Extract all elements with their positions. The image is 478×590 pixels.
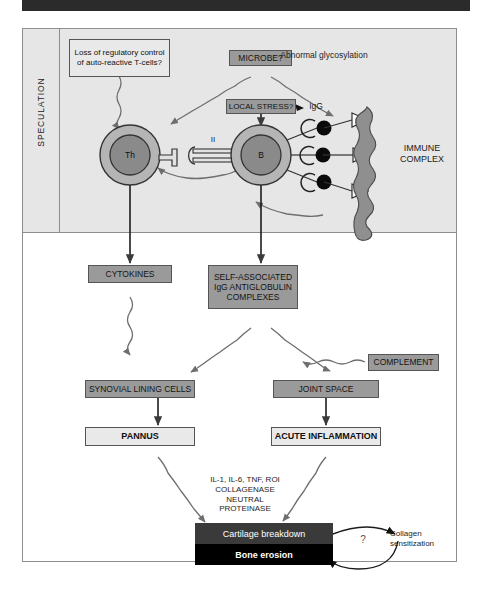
- node-abnormal-glycosylation-label: Abnormal glycosylation: [280, 50, 367, 60]
- node-igg-label: IgG: [309, 101, 323, 111]
- node-local-stress-label: LOCAL STRESS?: [229, 102, 294, 111]
- cell-label-b-text: B: [258, 150, 264, 160]
- node-loss-regulatory[interactable]: Loss of regulatory control of auto-react…: [69, 39, 170, 77]
- node-immune-complex: IMMUNE COMPLEX: [389, 143, 455, 165]
- node-pannus[interactable]: PANNUS: [85, 427, 195, 446]
- node-acute-inflammation[interactable]: ACUTE INFLAMMATION: [271, 427, 381, 446]
- node-joint-space[interactable]: JOINT SPACE: [273, 380, 379, 398]
- node-self-associated[interactable]: SELF-ASSOCIATED IgG ANTIGLOBULIN COMPLEX…: [208, 265, 298, 309]
- cell-label-th-text: Th: [125, 150, 135, 160]
- mhc-class-ii-glyph: [189, 147, 233, 164]
- node-cartilage-breakdown[interactable]: Cartilage breakdown: [195, 523, 333, 544]
- node-joint-space-label: JOINT SPACE: [299, 384, 354, 394]
- top-black-bar: [22, 0, 470, 11]
- node-synovial-lining-cells-label: SYNOVIAL LINING CELLS: [89, 384, 191, 394]
- cell-label-b: B: [246, 150, 276, 160]
- node-bone-erosion-label: Bone erosion: [235, 550, 293, 560]
- node-self-associated-label: SELF-ASSOCIATED IgG ANTIGLOBULIN COMPLEX…: [211, 272, 295, 302]
- node-complement-label: COMPLEMENT: [374, 357, 434, 367]
- node-pannus-label: PANNUS: [121, 431, 158, 442]
- mediator-line-2: COLLAGENASE: [186, 485, 304, 495]
- label-mhc-class-ii: II: [199, 135, 227, 145]
- node-cytokines[interactable]: CYTOKINES: [88, 265, 172, 283]
- node-collagen-sensitization-label: Collagen sensitization: [390, 529, 434, 548]
- cell-label-th: Th: [115, 150, 145, 160]
- node-immune-complex-label: IMMUNE COMPLEX: [400, 143, 444, 164]
- feedback-question-mark-text: ?: [360, 534, 366, 545]
- feedback-question-mark: ?: [355, 534, 371, 546]
- node-igg: IgG: [301, 101, 331, 111]
- node-cytokines-label: CYTOKINES: [106, 269, 155, 279]
- mediator-line-4: PROTEINASE: [186, 504, 304, 514]
- node-mediators: IL-1, IL-6, TNF, ROI COLLAGENASE NEUTRAL…: [186, 475, 304, 514]
- node-collagen-sensitization: Collagen sensitization: [390, 529, 458, 549]
- node-abnormal-glycosylation: Abnormal glycosylation: [278, 50, 370, 60]
- node-loss-regulatory-label: Loss of regulatory control of auto-react…: [73, 48, 166, 67]
- figure-frame: SPECULATION: [22, 28, 457, 562]
- label-mhc-class-ii-text: II: [211, 135, 215, 144]
- node-complement[interactable]: COMPLEMENT: [368, 354, 439, 371]
- node-local-stress[interactable]: LOCAL STRESS?: [226, 99, 296, 114]
- immune-complex-blob: [354, 107, 376, 240]
- node-cartilage-breakdown-label: Cartilage breakdown: [223, 529, 306, 539]
- mediator-line-3: NEUTRAL: [186, 495, 304, 505]
- mediator-line-1: IL-1, IL-6, TNF, ROI: [186, 475, 304, 485]
- node-synovial-lining-cells[interactable]: SYNOVIAL LINING CELLS: [85, 380, 195, 398]
- node-bone-erosion[interactable]: Bone erosion: [195, 544, 333, 565]
- node-acute-inflammation-label: ACUTE INFLAMMATION: [275, 431, 377, 442]
- node-microbe-label: MICROBE?: [238, 53, 282, 63]
